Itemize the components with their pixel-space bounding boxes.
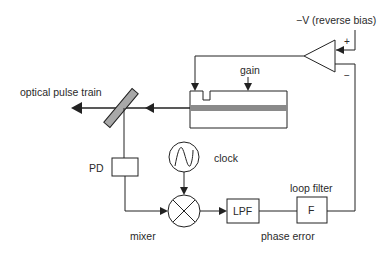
laser-chip [190, 91, 287, 128]
loop-filter-label: loop filter [290, 182, 333, 194]
optical-output-label: optical pulse train [20, 86, 102, 98]
gain-stripe [190, 105, 287, 111]
mixer-icon [168, 195, 200, 227]
gain-label: gain [240, 64, 260, 76]
minus-sign: − [344, 70, 350, 81]
gain-arrow [244, 77, 252, 91]
pd-label: PD [89, 162, 104, 174]
photodetector-box [112, 158, 138, 176]
bias-label: −V (reverse bias) [296, 14, 376, 26]
diagram-canvas: −V (reverse bias) + − gain optical pulse… [0, 0, 384, 255]
mixer-label: mixer [130, 230, 156, 242]
plus-sign: + [344, 36, 350, 47]
phase-error-label: phase error [261, 230, 315, 242]
pd-to-mixer-wire [125, 176, 168, 215]
mixer-to-lpf-wire [200, 207, 227, 215]
laser-beam [124, 103, 190, 113]
clock-to-mixer-wire [180, 172, 188, 195]
amplifier-icon [304, 40, 335, 72]
lpf-label: LPF [233, 205, 252, 217]
clock-label: clock [214, 152, 239, 164]
filter-block-label: F [308, 204, 314, 216]
clock-source-icon [169, 142, 199, 172]
